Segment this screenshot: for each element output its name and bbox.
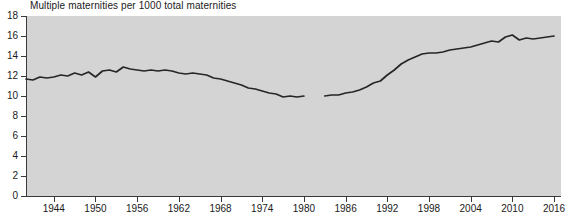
x-axis-tick-label: 1944 xyxy=(34,203,74,214)
y-axis-tick-label: 8 xyxy=(0,110,18,121)
y-axis-ticks xyxy=(21,17,26,197)
chart-canvas xyxy=(0,0,581,217)
x-axis-tick-label: 1980 xyxy=(284,203,324,214)
plot-background xyxy=(26,16,561,196)
x-axis-tick-label: 1950 xyxy=(75,203,115,214)
x-axis-tick-label: 1998 xyxy=(409,203,449,214)
x-axis-tick-label: 1968 xyxy=(201,203,241,214)
x-axis-tick-label: 1974 xyxy=(242,203,282,214)
y-axis-tick-label: 10 xyxy=(0,90,18,101)
y-axis-tick-label: 14 xyxy=(0,50,18,61)
y-axis-tick-label: 6 xyxy=(0,130,18,141)
y-axis-tick-label: 12 xyxy=(0,70,18,81)
x-axis-tick-label: 2004 xyxy=(451,203,491,214)
x-axis-tick-label: 1956 xyxy=(117,203,157,214)
y-axis-tick-label: 18 xyxy=(0,10,18,21)
y-axis-tick-label: 0 xyxy=(0,190,18,201)
x-axis-tick-label: 1986 xyxy=(326,203,366,214)
x-axis-tick-label: 1962 xyxy=(159,203,199,214)
x-axis-tick-label: 2016 xyxy=(534,203,574,214)
chart-figure: Multiple maternities per 1000 total mate… xyxy=(0,0,581,217)
x-axis-tick-label: 2010 xyxy=(492,203,532,214)
y-axis-tick-label: 2 xyxy=(0,170,18,181)
y-axis-tick-label: 4 xyxy=(0,150,18,161)
y-axis-tick-label: 16 xyxy=(0,30,18,41)
x-axis-tick-label: 1992 xyxy=(367,203,407,214)
